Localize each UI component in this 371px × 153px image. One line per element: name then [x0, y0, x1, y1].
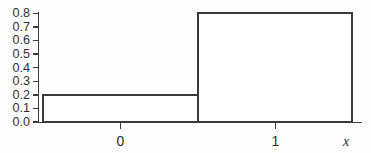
- x-label-1: 1: [272, 133, 280, 149]
- chart-canvas: 0.8 0.7 0.6 0.5 0.4 0.3 0.2 0.1 0.0 0 1 …: [0, 0, 371, 153]
- y-label-0.3: 0.3: [12, 74, 30, 88]
- histogram-chart: 0.8 0.7 0.6 0.5 0.4 0.3 0.2 0.1 0.0 0 1 …: [0, 0, 371, 153]
- y-label-0.5: 0.5: [12, 47, 30, 61]
- bar-bin-0: [43, 95, 198, 122]
- x-axis-labels: 0 1: [117, 133, 280, 149]
- x-label-0: 0: [117, 133, 125, 149]
- y-axis-labels: 0.8 0.7 0.6 0.5 0.4 0.3 0.2 0.1 0.0: [12, 6, 30, 129]
- y-label-0.2: 0.2: [12, 88, 30, 102]
- y-label-0.7: 0.7: [12, 20, 30, 34]
- bar-bin-1: [198, 13, 352, 122]
- x-axis-ticks: [121, 122, 276, 128]
- bar-series: [43, 13, 352, 122]
- y-label-0.4: 0.4: [12, 61, 30, 75]
- y-label-0.0: 0.0: [12, 115, 30, 129]
- y-label-0.8: 0.8: [12, 6, 30, 20]
- y-label-0.1: 0.1: [12, 101, 30, 115]
- x-axis-title: x: [342, 134, 350, 149]
- y-label-0.6: 0.6: [12, 33, 30, 47]
- y-axis-ticks: [33, 13, 39, 122]
